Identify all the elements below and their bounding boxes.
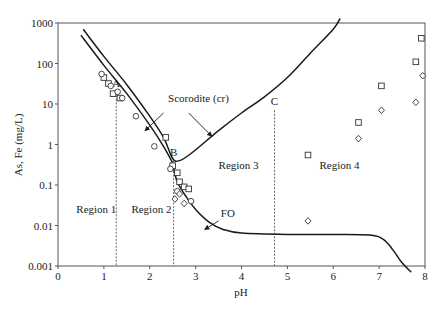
square-marker: [379, 83, 385, 89]
circle-marker: [119, 95, 125, 101]
y-axis-ticks: 10001001010.10.010.001: [28, 17, 58, 272]
x-tick-label: 3: [193, 270, 199, 282]
y-tick-label: 0.001: [28, 260, 53, 272]
y-tick-label: 1: [48, 139, 54, 151]
x-tick-label: 7: [376, 270, 382, 282]
region-label-2: Region 2: [131, 203, 171, 215]
diamond-marker: [413, 99, 419, 106]
plot-border: [58, 23, 425, 266]
y-tick-label: 0.1: [39, 179, 53, 191]
diamond-marker: [378, 107, 384, 114]
square-marker: [186, 186, 192, 192]
region-label-4: Region 4: [319, 159, 360, 171]
circle-marker: [152, 144, 158, 150]
square-marker: [419, 35, 425, 41]
arsenic-iron-ph-chart: 012345678 10001001010.10.010.001 ABC Reg…: [0, 0, 443, 316]
square-marker: [413, 59, 419, 65]
x-tick-label: 8: [422, 270, 428, 282]
square-marker: [174, 170, 180, 176]
x-tick-label: 0: [55, 270, 61, 282]
curve-fo: [173, 164, 412, 272]
curve-scorodite-cr-upper: [83, 18, 340, 161]
diamond-marker: [181, 200, 187, 207]
y-tick-label: 100: [37, 58, 54, 70]
circle-marker: [108, 83, 114, 89]
x-tick-label: 4: [239, 270, 245, 282]
annotation-arrow: [189, 113, 212, 136]
circle-marker: [99, 71, 105, 77]
region-label-3: Region 3: [219, 159, 260, 171]
square-marker: [163, 135, 169, 141]
region-label-1: Region 1: [76, 203, 116, 215]
circle-marker: [168, 166, 174, 172]
y-tick-label: 10: [42, 98, 54, 110]
y-tick-label: 1000: [31, 17, 54, 29]
annotation-fo: FO: [221, 207, 235, 219]
diamond-marker: [305, 218, 311, 225]
plot-frame: [58, 23, 425, 266]
diamond-marker: [172, 196, 178, 203]
circle-marker: [188, 198, 194, 204]
solubility-curves: [81, 18, 411, 272]
annotation-scorodite-cr-: Scorodite (cr): [168, 92, 229, 105]
x-tick-label: 1: [101, 270, 107, 282]
circle-marker: [133, 113, 139, 119]
x-tick-label: 6: [331, 270, 337, 282]
circle-marker: [115, 89, 121, 95]
curve-scorodite-cr-lower: [81, 35, 173, 163]
boundary-label-c: C: [271, 95, 278, 107]
x-axis-ticks: 012345678: [55, 266, 428, 282]
data-markers: [99, 35, 426, 224]
square-marker: [305, 152, 311, 158]
x-tick-label: 5: [285, 270, 291, 282]
x-axis-title: pH: [234, 286, 248, 298]
x-tick-label: 2: [147, 270, 153, 282]
region-labels: Region 1Region 2Region 3Region 4: [76, 159, 360, 215]
annotation-arrow: [205, 221, 219, 230]
y-axis-title: As, Fe (mg/L): [12, 113, 25, 176]
y-tick-label: 0.01: [34, 220, 53, 232]
diamond-marker: [355, 135, 361, 142]
square-marker: [356, 120, 362, 126]
